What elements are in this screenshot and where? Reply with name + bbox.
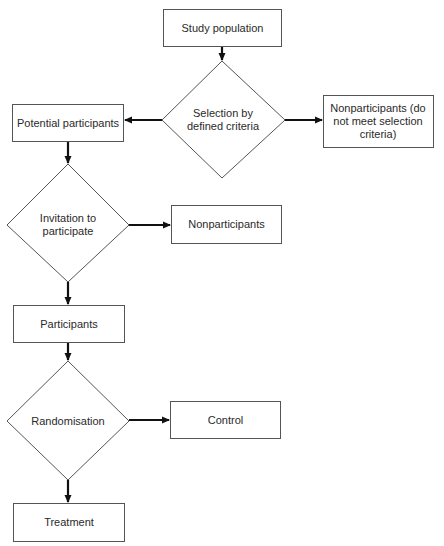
invitation-label: Invitation to participate: [30, 205, 106, 245]
treatment-label: Treatment: [14, 504, 124, 541]
selection-label: Selection by defined criteria: [176, 100, 270, 140]
study-population-label: Study population: [164, 10, 281, 46]
control-label: Control: [171, 402, 280, 438]
participants-label: Participants: [14, 306, 124, 342]
nonparticipants-criteria-label: Nonparticipants (do not meet selection c…: [328, 96, 428, 147]
flowchart-canvas: [0, 0, 444, 546]
potential-participants-label: Potential participants: [13, 105, 123, 141]
randomisation-label: Randomisation: [24, 411, 112, 431]
nonparticipants-label: Nonparticipants: [172, 206, 281, 243]
